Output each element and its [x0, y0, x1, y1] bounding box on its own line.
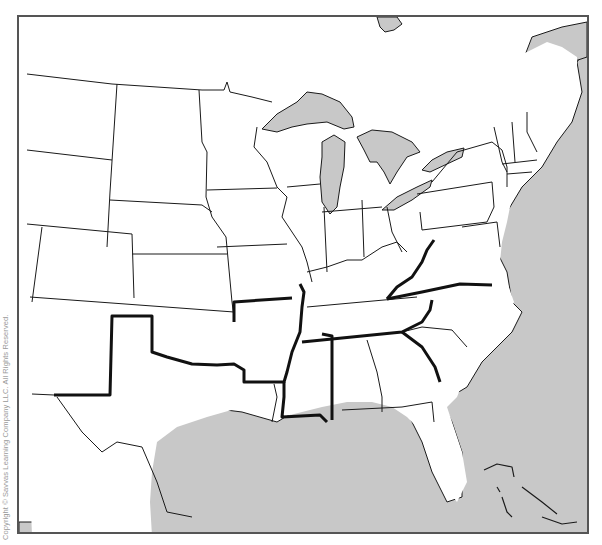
outline-map — [19, 17, 589, 534]
map-frame — [17, 15, 589, 534]
hudson-bay-inlet — [377, 17, 402, 32]
copyright-notice: Copyright © Savvas Learning Company LLC.… — [1, 315, 10, 540]
